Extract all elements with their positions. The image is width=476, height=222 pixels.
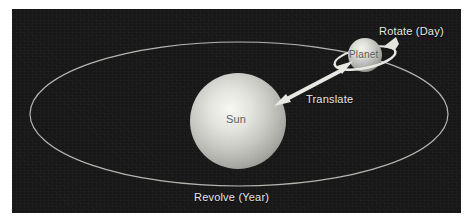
- rotate-arrowhead: [383, 37, 399, 50]
- diagram-panel: Sun Planet Translate Rotate (Day) Revolv…: [12, 9, 461, 213]
- sun-label: Sun: [226, 113, 246, 125]
- rotate-label: Rotate (Day): [379, 25, 444, 37]
- figure-root: Sun Planet Translate Rotate (Day) Revolv…: [0, 0, 476, 222]
- translate-label: Translate: [306, 93, 353, 105]
- revolve-label: Revolve (Year): [194, 191, 269, 203]
- planet-label: Planet: [349, 49, 379, 60]
- diagram-canvas: [12, 9, 461, 213]
